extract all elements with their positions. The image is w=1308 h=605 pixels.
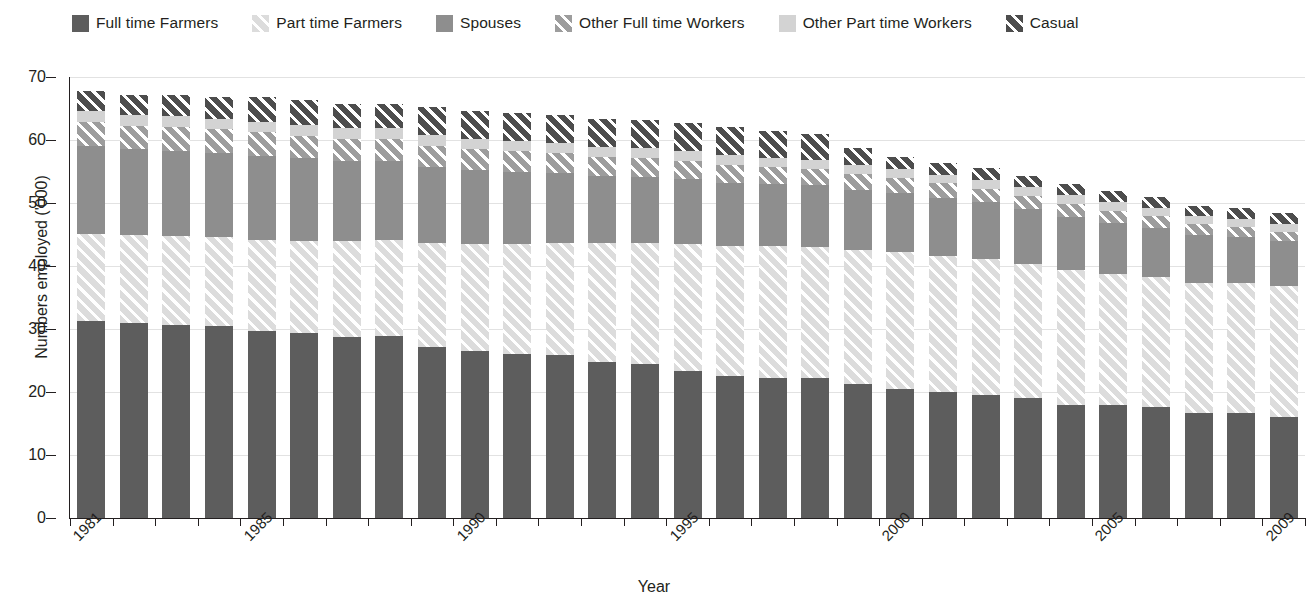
x-tick-label: 1981 [69, 508, 105, 544]
x-tick-label: 1995 [666, 508, 702, 544]
x-tick-label: 2009 [1262, 508, 1298, 544]
x-axis-title: Year [0, 578, 1308, 596]
x-tick-label: 1985 [240, 508, 276, 544]
x-axis-tick-labels: 1981198519901995200020052009 [0, 0, 1308, 605]
x-tick-label: 2005 [1091, 508, 1127, 544]
chart-plot-area: Numbers employed ('000) 010203040506070 … [0, 0, 1308, 605]
x-tick-label: 1990 [453, 508, 489, 544]
x-tick-label: 2000 [878, 508, 914, 544]
